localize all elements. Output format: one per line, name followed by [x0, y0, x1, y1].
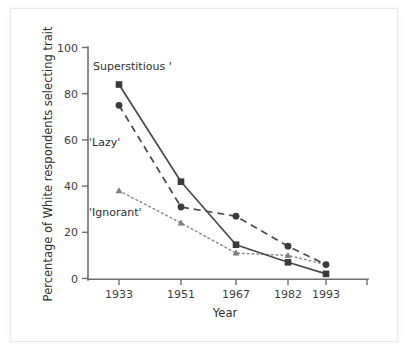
y-tick-label-20: 20 — [64, 226, 78, 239]
line-chart: 100 80 60 40 20 0 1933 1951 1967 1982 19… — [0, 0, 408, 351]
series-lazy-line — [119, 105, 326, 264]
x-tick-label-1933: 1933 — [105, 288, 133, 301]
x-tick-label-1967: 1967 — [222, 288, 250, 301]
data-point-superstitious-1951 — [178, 178, 185, 185]
data-point-lazy-1951 — [178, 204, 185, 211]
y-tick-label-0: 0 — [71, 273, 78, 286]
y-tick-label-40: 40 — [64, 180, 78, 193]
data-point-superstitious-1982 — [285, 259, 292, 266]
series-ignorant-line — [119, 191, 326, 265]
series-superstitious — [116, 81, 330, 277]
series-lazy — [116, 102, 330, 268]
x-tick-label-1982: 1982 — [274, 288, 302, 301]
data-point-superstitious-1933 — [116, 81, 123, 88]
x-axis: 1933 1951 1967 1982 1993 — [88, 279, 368, 301]
figure-root: 100 80 60 40 20 0 1933 1951 1967 1982 19… — [0, 0, 408, 351]
y-axis: 100 80 60 40 20 0 — [57, 42, 88, 286]
data-point-ignorant-1933 — [116, 187, 123, 193]
data-point-lazy-1933 — [116, 102, 123, 109]
data-point-superstitious-1967 — [233, 241, 240, 248]
series-label-lazy: 'Lazy' — [89, 136, 120, 149]
x-axis-title: Year — [212, 306, 238, 320]
y-tick-label-60: 60 — [64, 134, 78, 147]
y-tick-label-100: 100 — [57, 42, 78, 55]
series-label-ignorant: 'Ignorant' — [89, 206, 142, 219]
data-point-lazy-1967 — [233, 213, 240, 220]
data-point-lazy-1993 — [323, 261, 330, 268]
x-tick-label-1993: 1993 — [312, 288, 340, 301]
x-tick-label-1951: 1951 — [167, 288, 195, 301]
y-axis-title: Percentage of White respondents selectin… — [41, 26, 55, 301]
y-tick-label-80: 80 — [64, 88, 78, 101]
data-point-lazy-1982 — [285, 243, 292, 250]
series-ignorant — [116, 187, 326, 264]
series-label-superstitious: Superstitious ' — [93, 60, 172, 73]
data-point-superstitious-1993 — [323, 271, 330, 278]
